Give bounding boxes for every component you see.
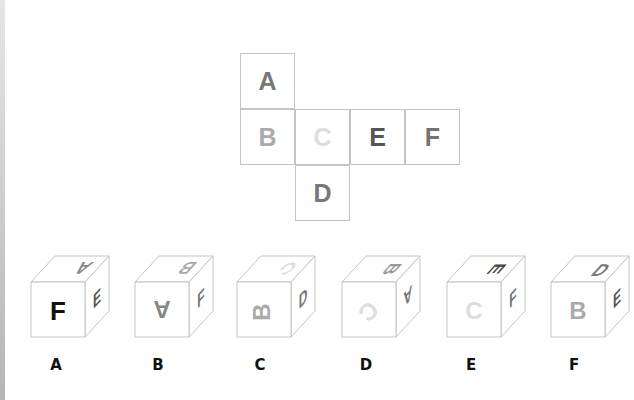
option-label-d[interactable]: D [351,356,381,374]
option-label-c[interactable]: C [245,356,275,374]
net-letter: D [313,179,331,208]
net-cell-f: F [405,109,460,165]
net-letter: B [258,123,276,152]
option-b-cube[interactable]: A B F [129,250,219,345]
option-f-cube[interactable]: B D E [545,250,634,345]
net-cell-e: E [350,109,405,165]
front-face-letter: A [153,296,170,323]
option-e-cube[interactable]: C E F [441,250,531,345]
net-cell-a: A [240,53,295,109]
front-face-letter: B [569,297,586,324]
option-c-cube[interactable]: B C D [231,250,321,345]
net-letter: E [369,123,386,152]
option-a-cube[interactable]: F A E [25,250,115,345]
front-face-letter: F [50,296,66,326]
net-cell-c: C [295,109,350,165]
net-letter: C [313,123,331,152]
front-face-letter: C [465,297,482,324]
net-letter: A [258,67,276,96]
option-d-cube[interactable]: C B A [336,250,426,345]
option-label-e[interactable]: E [456,356,486,374]
net-cell-d: D [295,165,350,221]
net-cell-b: B [240,109,295,165]
option-label-f[interactable]: F [559,356,589,374]
option-label-b[interactable]: B [143,356,173,374]
left-edge-strip [0,0,5,400]
option-label-a[interactable]: A [41,356,71,374]
front-face-letter: B [248,303,275,320]
net-letter: F [425,123,440,152]
